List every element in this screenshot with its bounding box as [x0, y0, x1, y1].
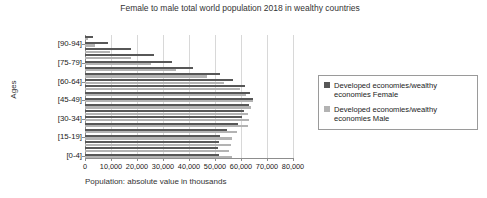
- x-axis-title: Population: absolute value in thousands: [85, 177, 226, 186]
- bar-male: [85, 94, 246, 96]
- x-axis-tick-label: 20,000: [126, 162, 148, 171]
- chart-title: Female to male total world population 20…: [90, 3, 390, 14]
- bar-male: [85, 156, 232, 158]
- x-axis-tick-mark: [137, 158, 138, 161]
- y-axis-category-labels: [90-94][75-79][60-64][45-49][30-34][15-1…: [30, 35, 82, 159]
- x-axis-tick-mark: [111, 158, 112, 161]
- legend-item[interactable]: Developed economies/wealthy economies Fe…: [324, 81, 473, 100]
- x-axis-tick-mark: [189, 158, 190, 161]
- x-axis-tick-mark: [163, 158, 164, 161]
- x-axis-tick-label: 40,000: [178, 162, 200, 171]
- bar-male: [85, 113, 248, 115]
- legend-swatch-icon: [324, 82, 330, 88]
- bar-male: [85, 137, 232, 139]
- legend-item[interactable]: Developed economies/wealthy economies Ma…: [324, 105, 473, 124]
- x-axis-tick-mark: [293, 158, 294, 161]
- chart-legend: Developed economies/wealthy economies Fe…: [318, 75, 478, 130]
- bar-male: [85, 57, 131, 59]
- y-axis-tick-label: [15-19]: [32, 132, 82, 141]
- y-axis-tick-label: [0-4]: [32, 151, 82, 160]
- bar-male: [85, 119, 249, 121]
- y-axis-tick-label: [90-94]: [32, 39, 82, 48]
- gridline: [293, 35, 294, 159]
- bar-male: [85, 51, 110, 53]
- x-axis-tick-label: 50,000: [204, 162, 226, 171]
- x-axis-tick-label: 60,000: [230, 162, 252, 171]
- plot-area: [85, 35, 293, 159]
- bar-male: [85, 106, 251, 108]
- y-axis-tick-label: [75-79]: [32, 58, 82, 67]
- bar-male: [85, 131, 237, 133]
- x-axis-tick-labels: 010,00020,00030,00040,00050,00060,00070,…: [85, 162, 300, 174]
- x-axis-tick-mark: [241, 158, 242, 161]
- bar-male: [85, 88, 240, 90]
- bar-male: [85, 144, 231, 146]
- bar-male: [85, 44, 95, 46]
- y-axis-tick-label: [60-64]: [32, 77, 82, 86]
- bar-male: [85, 82, 224, 84]
- x-axis-tick-label: 80,000: [282, 162, 304, 171]
- y-axis-tick-label: [45-49]: [32, 95, 82, 104]
- population-pyramid-chart: Female to male total world population 20…: [0, 0, 487, 198]
- bar-male: [85, 125, 248, 127]
- bar-male: [85, 69, 176, 71]
- x-axis-tick-label: 70,000: [256, 162, 278, 171]
- bar-male: [85, 38, 88, 40]
- legend-swatch-icon: [324, 106, 330, 112]
- y-axis-tick-label: [30-34]: [32, 114, 82, 123]
- bar-male: [85, 63, 151, 65]
- x-axis-tick-mark: [85, 158, 86, 161]
- legend-label: Developed economies/wealthy economies Ma…: [334, 105, 473, 124]
- legend-label: Developed economies/wealthy economies Fe…: [334, 81, 473, 100]
- bar-male: [85, 100, 253, 102]
- y-axis-title: Ages: [9, 65, 18, 115]
- x-axis-tick-label: 0: [83, 162, 87, 171]
- bar-male: [85, 75, 207, 77]
- x-axis-tick-label: 10,000: [100, 162, 122, 171]
- x-axis-tick-mark: [215, 158, 216, 161]
- bar-male: [85, 150, 229, 152]
- x-axis-tick-mark: [267, 158, 268, 161]
- x-axis-tick-label: 30,000: [152, 162, 174, 171]
